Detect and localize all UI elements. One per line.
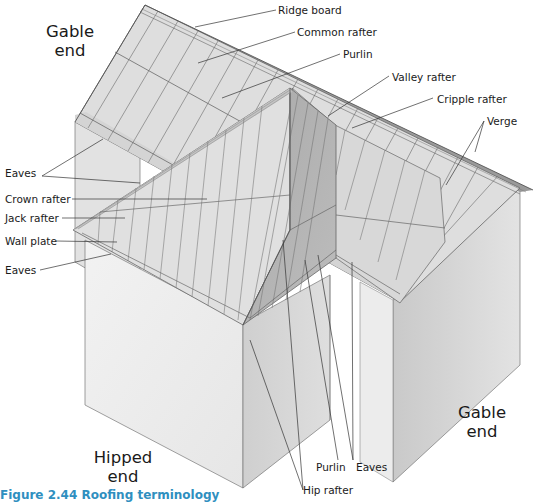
gable-end-top-label: Gable end — [46, 22, 94, 60]
label-verge: Verge — [487, 115, 517, 127]
figure-caption: Figure 2.44 Roofing terminology — [0, 488, 219, 503]
label-ridge-board: Ridge board — [278, 4, 342, 16]
label-common-rafter: Common rafter — [297, 26, 377, 38]
label-hip-rafter: Hip rafter — [303, 484, 353, 496]
label-purlin-top: Purlin — [343, 48, 373, 60]
label-eaves-lower: Eaves — [5, 264, 36, 276]
gable-end-right-line1: Gable — [456, 403, 508, 422]
gable-end-right-line2: end — [456, 422, 508, 441]
gable-end-top-line2: end — [46, 41, 94, 60]
gable-end-top-line1: Gable — [46, 22, 94, 41]
gable-end-right-label: Gable end — [456, 403, 508, 441]
label-jack-rafter: Jack rafter — [5, 212, 59, 224]
label-purlin-bottom: Purlin — [316, 461, 346, 473]
label-wall-plate: Wall plate — [5, 235, 57, 247]
label-eaves-upper: Eaves — [5, 167, 36, 179]
label-crown-rafter: Crown rafter — [5, 193, 71, 205]
label-eaves-bottom: Eaves — [356, 461, 387, 473]
hipped-end-line2: end — [92, 467, 154, 486]
hipped-end-line1: Hipped — [92, 448, 154, 467]
label-cripple-rafter: Cripple rafter — [437, 93, 507, 105]
hipped-end-label: Hipped end — [92, 448, 154, 486]
label-valley-rafter: Valley rafter — [392, 71, 456, 83]
